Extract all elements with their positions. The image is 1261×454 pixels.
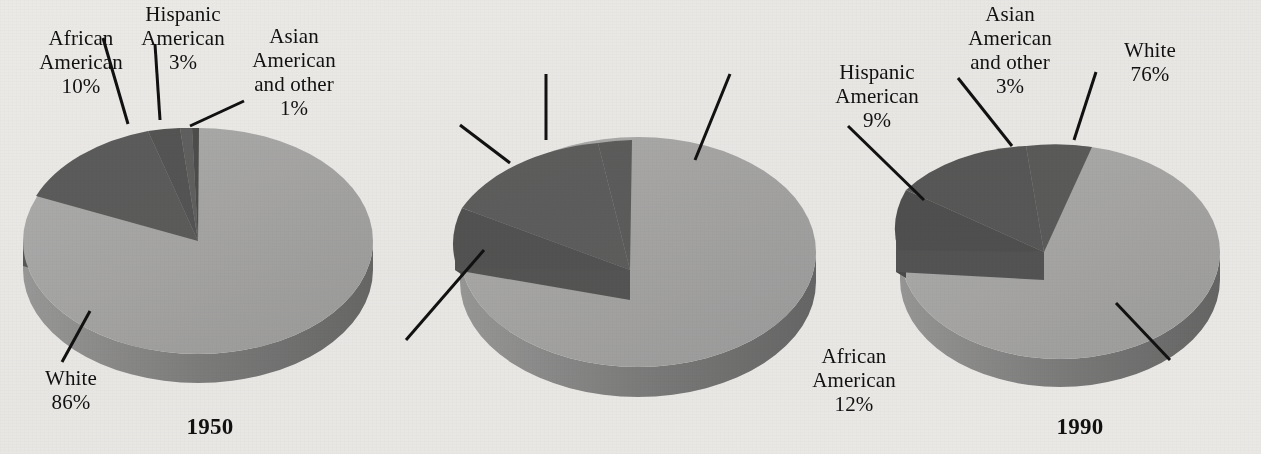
leader-line-white-1990 — [695, 74, 730, 160]
leader-line-hispanic-1990 — [460, 125, 510, 163]
pie-panel-1990: Hispanic American 9% Asian American and … — [400, 0, 840, 454]
label-white-1950: White 86% — [16, 366, 126, 414]
pie-panel-1950: African American 10% Hispanic American 3… — [0, 0, 420, 454]
label-asian-american-1990: Asian American and other 3% — [930, 2, 1090, 98]
pie-1990-graphic — [400, 0, 840, 454]
year-label-1990: 1990 — [1020, 414, 1140, 440]
leader-line-african-2025 — [848, 126, 924, 200]
year-label-1950: 1950 — [150, 414, 270, 440]
label-african-american-1990: African American 12% — [776, 344, 932, 416]
pie-chart-figure: African American 10% Hispanic American 3… — [0, 0, 1261, 454]
label-asian-american-1950: Asian American and other 1% — [214, 24, 374, 120]
label-white-1990: White 76% — [1090, 38, 1210, 86]
